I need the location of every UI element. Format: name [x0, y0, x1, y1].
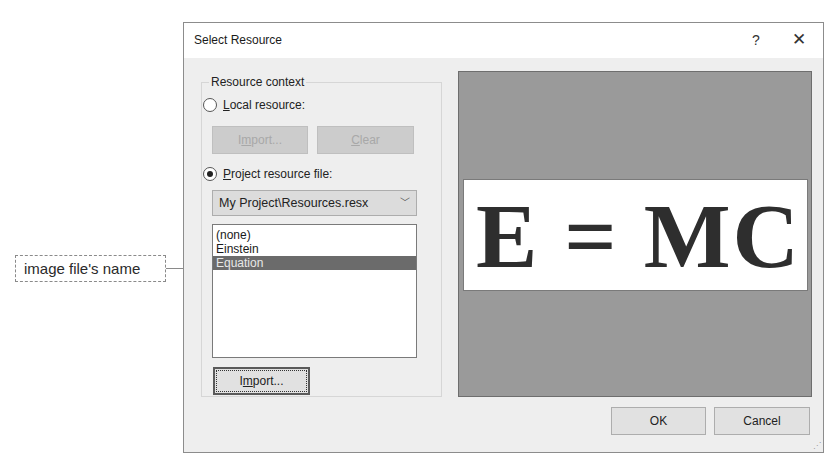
- close-icon[interactable]: ✕: [787, 29, 811, 51]
- resize-grip-icon[interactable]: ⋰: [813, 441, 821, 450]
- title-bar[interactable]: Select Resource ? ✕: [184, 23, 823, 58]
- local-resource-radio[interactable]: Local resource:: [203, 98, 305, 112]
- radio-unchecked-icon[interactable]: [203, 98, 217, 112]
- resources-listbox[interactable]: (none) Einstein Equation: [212, 224, 417, 358]
- resource-context-legend: Resource context: [209, 75, 306, 89]
- equation-image-text: E = MC: [476, 186, 801, 286]
- preview-image: E = MC: [463, 179, 808, 291]
- radio-checked-icon[interactable]: [203, 167, 217, 181]
- list-item-einstein[interactable]: Einstein: [213, 242, 416, 256]
- combo-selected-value: My Project\Resources.resx: [219, 196, 368, 210]
- chevron-down-icon[interactable]: ﹀: [400, 191, 410, 215]
- list-item-equation[interactable]: Equation: [213, 256, 416, 270]
- dialog-title: Select Resource: [194, 33, 282, 47]
- local-resource-label: Local resource:: [223, 98, 305, 112]
- callout-text: image file's name: [24, 260, 140, 277]
- list-item-none[interactable]: (none): [213, 228, 416, 242]
- resource-context-group: Resource context Local resource: Import.…: [201, 82, 442, 397]
- select-resource-dialog: Select Resource ? ✕ Resource context Loc…: [183, 22, 824, 453]
- local-import-button[interactable]: Import...: [212, 126, 308, 154]
- callout-label: image file's name: [15, 255, 166, 282]
- help-button[interactable]: ?: [744, 29, 768, 51]
- resource-file-combo[interactable]: My Project\Resources.resx ﹀: [212, 190, 417, 216]
- project-resource-radio[interactable]: Project resource file:: [203, 167, 332, 181]
- cancel-button[interactable]: Cancel: [714, 407, 810, 435]
- clear-button[interactable]: Clear: [317, 126, 414, 154]
- project-import-button[interactable]: Import...: [213, 367, 310, 395]
- project-resource-label: Project resource file:: [223, 167, 332, 181]
- ok-button[interactable]: OK: [611, 407, 706, 435]
- image-preview-panel: E = MC: [458, 71, 812, 397]
